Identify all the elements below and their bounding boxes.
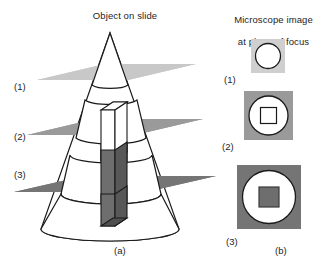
figure-root: Object on slide Microscope image at plan… (0, 0, 328, 271)
view-label-1: (1) (224, 74, 236, 85)
microscope-view-2 (244, 91, 293, 140)
plane-label-1: (1) (14, 81, 26, 92)
plane-label-3: (3) (14, 169, 26, 180)
left-panel-caption: (a) (114, 245, 126, 256)
right-panel-caption: (b) (275, 245, 287, 256)
view-2-inner-square (261, 108, 277, 124)
view-1-circle (256, 44, 281, 69)
view-label-2: (2) (222, 141, 234, 152)
view-label-3: (3) (226, 236, 238, 247)
cone-tip-over-plane-1 (92, 33, 128, 88)
view-3-inner-square (259, 187, 279, 207)
microscope-view-3 (237, 165, 301, 229)
plane-label-2: (2) (14, 131, 26, 142)
diagram-canvas (0, 0, 328, 271)
microscope-view-1 (251, 39, 285, 73)
